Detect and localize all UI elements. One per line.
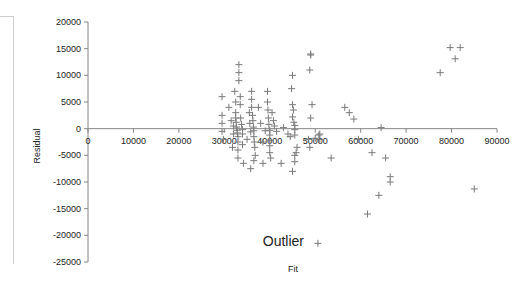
plus-marker: [288, 85, 295, 92]
plus-marker: [289, 72, 296, 79]
x-tick-label: 70000: [394, 136, 419, 146]
plus-marker: [291, 132, 298, 139]
plus-marker: [437, 69, 444, 76]
plus-marker: [387, 179, 394, 186]
x-tick-label: 90000: [484, 136, 509, 146]
annotations: Outlier: [263, 233, 305, 249]
plus-marker: [309, 101, 316, 108]
plus-marker: [350, 116, 357, 123]
plus-marker: [264, 88, 271, 95]
plus-marker: [294, 144, 301, 151]
plus-marker: [307, 115, 314, 122]
plus-marker: [240, 160, 247, 167]
y-tick-label: -15000: [53, 204, 81, 214]
plus-marker: [237, 115, 244, 122]
y-tick-label: 10000: [56, 70, 81, 80]
y-tick-label: 15000: [56, 44, 81, 54]
plus-marker: [255, 104, 262, 111]
plus-marker: [235, 69, 242, 76]
plus-marker: [265, 121, 272, 128]
plus-marker: [219, 112, 226, 119]
y-tick-label: -25000: [53, 257, 81, 267]
plus-marker: [280, 124, 287, 131]
y-tick-label: 0: [76, 124, 81, 134]
plus-marker: [289, 168, 296, 175]
plus-marker: [234, 155, 241, 162]
x-axis: 0100002000030000400005000060000700008000…: [85, 129, 509, 146]
plus-marker: [341, 104, 348, 111]
plus-marker: [328, 155, 335, 162]
plus-marker: [266, 149, 273, 156]
plus-marker: [290, 119, 297, 126]
plus-marker: [375, 192, 382, 199]
plus-marker: [247, 165, 254, 172]
plus-marker: [289, 101, 296, 108]
plus-marker: [235, 61, 242, 68]
y-tick-label: -10000: [53, 177, 81, 187]
plus-marker: [235, 77, 242, 84]
y-tick-label: -5000: [58, 150, 81, 160]
scatter-chart: 20000150001000050000-5000-10000-15000-20…: [0, 0, 526, 291]
plus-marker: [244, 136, 251, 143]
plus-marker: [267, 155, 274, 162]
plus-marker: [237, 93, 244, 100]
plus-marker: [248, 96, 255, 103]
y-tick-label: -20000: [53, 230, 81, 240]
y-axis: 20000150001000050000-5000-10000-15000-20…: [53, 17, 88, 267]
plus-marker: [452, 55, 459, 62]
plus-marker: [369, 149, 376, 156]
y-tick-label: 5000: [61, 97, 81, 107]
outlier-annotation: Outlier: [263, 233, 305, 249]
plus-marker: [291, 158, 298, 165]
x-axis-title: Fit: [288, 264, 298, 274]
plus-marker: [219, 120, 226, 127]
plus-marker: [252, 152, 259, 159]
plus-marker: [457, 44, 464, 51]
x-tick-label: 0: [85, 136, 90, 146]
x-tick-label: 20000: [166, 136, 191, 146]
plus-marker: [447, 44, 454, 51]
plus-marker: [278, 160, 285, 167]
x-tick-label: 10000: [121, 136, 146, 146]
y-axis-title: Residual: [32, 128, 42, 163]
plus-marker: [264, 99, 271, 106]
plus-marker: [314, 240, 321, 247]
plus-marker: [471, 185, 478, 192]
plus-marker: [248, 88, 255, 95]
plus-marker: [259, 160, 266, 167]
plus-marker: [290, 107, 297, 114]
plus-marker: [382, 155, 389, 162]
plus-marker: [378, 124, 385, 131]
plus-marker: [306, 67, 313, 74]
plus-marker: [257, 120, 264, 127]
plus-marker: [307, 52, 314, 59]
plus-marker: [346, 109, 353, 116]
x-tick-label: 60000: [348, 136, 373, 146]
plus-marker: [289, 113, 296, 120]
plus-marker: [225, 104, 232, 111]
plus-marker: [219, 93, 226, 100]
x-tick-label: 80000: [439, 136, 464, 146]
plus-marker: [364, 211, 371, 218]
plus-marker: [231, 88, 238, 95]
y-tick-label: 20000: [56, 17, 81, 27]
plus-marker: [250, 157, 257, 164]
